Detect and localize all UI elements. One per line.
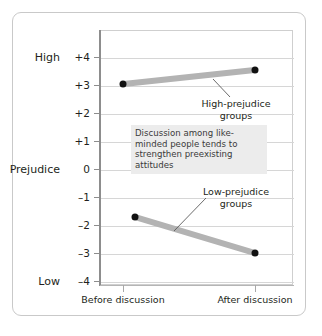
- x-tick-label-after: After discussion: [217, 294, 292, 305]
- y-tick-mark-neg3: [94, 253, 100, 254]
- gridline-neg2: [101, 226, 294, 227]
- y-tick-label-2: +2: [64, 107, 90, 119]
- annotation-note: Discussion among like-minded people tend…: [131, 125, 267, 174]
- x-axis-spine: [100, 285, 294, 286]
- y-tick-label-neg1: –1: [64, 191, 90, 203]
- y-tick-mark-neg2: [94, 225, 100, 226]
- x-tick-mark-after: [255, 285, 256, 292]
- x-tick-label-before: Before discussion: [81, 294, 164, 305]
- y-tick-mark-3: [94, 85, 100, 86]
- gridline-neg3: [101, 254, 294, 255]
- y-axis-high-label: High: [0, 51, 60, 64]
- y-tick-label-neg3: –3: [64, 247, 90, 259]
- y-tick-label-neg2: –2: [64, 219, 90, 231]
- figure-container: +4 +3 +2 +1 0 –1 –2 –3 –4 High Prejudice…: [0, 0, 322, 336]
- y-axis-spine: [99, 30, 101, 286]
- callout-high-prejudice: High-prejudice groups: [186, 98, 286, 121]
- y-tick-label-1: +1: [64, 135, 90, 147]
- x-tick-mark-before: [123, 285, 124, 292]
- y-tick-mark-neg4: [94, 281, 100, 282]
- y-axis-title: Prejudice: [0, 163, 60, 176]
- data-point-low-after: [252, 250, 259, 257]
- y-tick-mark-1: [94, 141, 100, 142]
- y-tick-mark-4: [94, 57, 100, 58]
- gridline-4: [101, 58, 294, 59]
- data-point-low-before: [132, 214, 139, 221]
- y-tick-label-neg4: –4: [64, 275, 90, 287]
- callout-low-prejudice: Low-prejudice groups: [190, 186, 282, 209]
- y-axis-low-label: Low: [0, 275, 60, 288]
- y-tick-label-0: 0: [64, 163, 90, 175]
- y-tick-mark-0: [94, 169, 100, 170]
- y-tick-label-3: +3: [64, 79, 90, 91]
- data-point-high-before: [120, 81, 127, 88]
- data-point-high-after: [252, 67, 259, 74]
- gridline-neg4: [101, 282, 294, 283]
- y-tick-label-4: +4: [64, 51, 90, 63]
- y-tick-mark-neg1: [94, 197, 100, 198]
- y-tick-mark-2: [94, 113, 100, 114]
